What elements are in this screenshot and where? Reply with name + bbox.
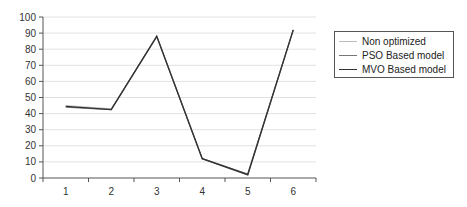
- x-tick-label: 1: [63, 186, 69, 197]
- legend-label: PSO Based model: [362, 50, 444, 61]
- legend-item-non-optimized: Non optimized: [339, 34, 449, 48]
- legend: Non optimized PSO Based model MVO Based …: [334, 31, 454, 78]
- y-tick-label: 60: [25, 76, 37, 87]
- y-tick-label: 80: [25, 44, 37, 55]
- y-tick-label: 40: [25, 108, 37, 119]
- series-lines: [66, 30, 294, 175]
- y-tick-label: 30: [25, 124, 37, 135]
- legend-item-pso: PSO Based model: [339, 48, 449, 62]
- y-tick-label: 100: [19, 12, 36, 23]
- y-axis-ticks: 0102030405060708090100: [19, 12, 43, 184]
- y-tick-label: 0: [30, 173, 36, 184]
- x-tick-label: 5: [245, 186, 251, 197]
- y-tick-label: 10: [25, 156, 37, 167]
- x-tick-label: 6: [290, 186, 296, 197]
- x-tick-label: 4: [199, 186, 205, 197]
- y-tick-label: 50: [25, 92, 37, 103]
- series-line: [66, 30, 294, 175]
- y-tick-label: 20: [25, 140, 37, 151]
- legend-item-mvo: MVO Based model: [339, 62, 449, 76]
- legend-swatch-mvo: [339, 69, 357, 70]
- y-tick-label: 70: [25, 60, 37, 71]
- legend-label: Non optimized: [362, 36, 426, 47]
- legend-label: MVO Based model: [362, 64, 446, 75]
- y-tick-label: 90: [25, 28, 37, 39]
- series-line: [66, 30, 294, 175]
- x-axis-ticks: 123456: [43, 178, 316, 197]
- x-tick-label: 2: [108, 186, 114, 197]
- legend-swatch-non-optimized: [339, 41, 357, 42]
- legend-swatch-pso: [339, 55, 357, 56]
- series-line: [66, 30, 294, 174]
- x-tick-label: 3: [154, 186, 160, 197]
